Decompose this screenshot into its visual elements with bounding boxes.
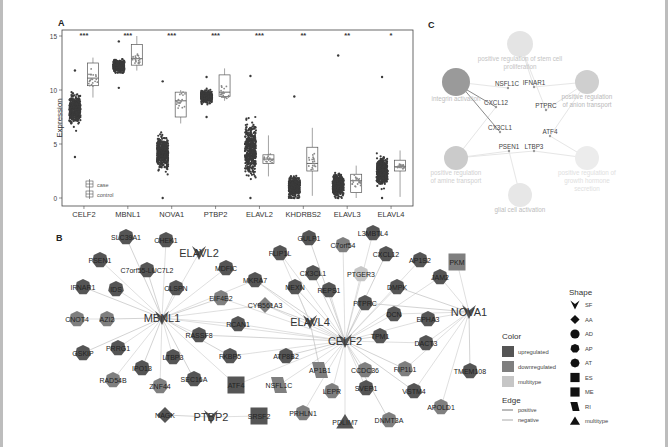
gene-label: PDLIM7	[332, 419, 357, 426]
gene-node: CLSPN	[164, 280, 187, 295]
gene-label: AP1B1	[309, 367, 331, 374]
control-box	[87, 58, 98, 98]
gene-label: TMEM108	[454, 368, 486, 375]
gene-label: PTPRC	[353, 300, 377, 307]
hub-label: PTBP2	[194, 411, 229, 423]
gene-node: MKRA7	[243, 272, 267, 287]
legend-shape-parallelogram-icon	[570, 402, 579, 411]
go-term-label: of anion transport	[562, 101, 611, 109]
gene-label: FKBP5	[219, 353, 241, 360]
go-term-node: positive regulationof amine transport	[431, 146, 482, 185]
gene-label: IFNAR1	[71, 284, 96, 291]
gene-node: TMEM108	[454, 363, 486, 378]
gene-node: CX3CL1	[488, 124, 512, 133]
y-tick-label: 0	[53, 195, 57, 202]
hub-rbp-node: MBNL1	[144, 311, 181, 325]
x-tick-label: MBNL1	[115, 210, 140, 219]
boxplot-chart: 051015ExpressionCELF2***MBNL1***NOVA1***…	[0, 0, 420, 230]
legend-label: control	[97, 192, 114, 198]
gene-label: PKM	[449, 259, 464, 266]
go-term-node: integrin activation	[431, 68, 481, 103]
legend: casecontrol	[86, 179, 114, 199]
gene-label: IDS	[110, 286, 122, 293]
gene-node: CHEK1	[154, 232, 177, 247]
go-term-node: positive regulationof anion transport	[562, 70, 613, 109]
legend-shape-diamond-icon	[570, 315, 579, 324]
gene-label: ATF4	[543, 128, 558, 135]
gene-node: REPS1	[318, 282, 341, 297]
legend-shape-title: Shape	[569, 288, 593, 297]
case-points	[112, 40, 125, 89]
rbp-interaction-network: SLC39A1CHEK1PSEN1C7orf55-LUC7L2MDFICMKRA…	[0, 225, 668, 447]
gene-node: NSFL1C	[495, 80, 520, 89]
legend-shape-label: AA	[585, 317, 593, 323]
gene-label: PTPRC	[535, 102, 557, 109]
significance-marker: ***	[80, 31, 89, 40]
hub-rbp-node: ELAVL2	[179, 246, 219, 260]
gene-label: ATF4	[228, 382, 245, 389]
legend-color-swatch	[502, 376, 514, 387]
x-tick-label: NOVA1	[159, 210, 184, 219]
gene-node: IDS	[108, 281, 124, 296]
gene-label: AP1S2	[409, 257, 431, 264]
control-box	[219, 68, 230, 100]
go-term-label: glial cell activation	[495, 206, 546, 214]
gene-label: GULP1	[298, 235, 321, 242]
gene-node: EIF4E2	[209, 290, 232, 305]
gene-node: CXCL12	[484, 99, 508, 108]
gene-label: PTGER3	[347, 271, 375, 278]
hub-rbp-node: ELAVL4	[290, 315, 330, 329]
legend-label: case	[97, 182, 109, 188]
legend-color-label: downregulated	[518, 364, 556, 370]
gene-label: JAM2	[431, 274, 449, 281]
gene-node: IPO13	[132, 360, 152, 375]
gene-label: PSEN1	[499, 143, 520, 150]
gene-label: PSEN1	[89, 257, 112, 264]
gene-node: FKBP5	[219, 348, 241, 363]
gene-node: SLC39A1	[111, 229, 141, 244]
legend-color-label: upregulated	[518, 349, 549, 355]
legend-shape-label: SF	[585, 302, 593, 308]
hub-label: ELAVL4	[290, 316, 330, 328]
significance-marker: **	[300, 31, 306, 40]
gene-label: SRSF2	[248, 413, 271, 420]
gene-node: AZI2	[99, 311, 115, 326]
gene-label: PRRG1	[106, 345, 130, 352]
gene-node: C7orf55-LUC7L2	[121, 262, 174, 277]
gene-node: CX3CL1	[300, 265, 327, 280]
legend-edge-label: negative	[518, 417, 539, 423]
gene-node: TPM1	[371, 328, 390, 343]
gene-node: L3MBTL4	[358, 225, 388, 240]
gene-label: DCN	[386, 311, 401, 318]
gene-node: DNMT3A	[375, 412, 404, 427]
gene-label: FLIP1L	[269, 250, 292, 257]
gene-label: CHEK1	[154, 237, 177, 244]
significance-marker: ***	[167, 31, 176, 40]
hub-rbp-node: PTBP2	[194, 410, 229, 424]
gene-label: PRHLN1	[289, 410, 317, 417]
y-axis-label: Expression	[55, 98, 64, 138]
gene-label: CYB561A3	[248, 302, 283, 309]
gene-label: CX3CL1	[300, 270, 327, 277]
legend-shape-rounded-square-icon	[570, 387, 579, 396]
go-term-node: positive regulation ofgrowth hormonesecr…	[558, 146, 616, 192]
gene-node: PKM	[449, 254, 466, 271]
gene-node: JAM2	[431, 269, 449, 284]
gene-node: RAD54B	[99, 372, 127, 387]
y-tick-label: 15	[50, 33, 58, 40]
legend-shape-label: AP	[585, 346, 593, 352]
x-tick-label: ELAVL2	[246, 210, 273, 219]
network-legend: ColorupregulateddownregulatedmultitypeEd…	[502, 288, 608, 425]
gene-label: RCAN1	[226, 321, 250, 328]
gene-label: IFNAR1	[523, 79, 546, 86]
legend-color-label: multitype	[518, 379, 541, 385]
gene-node: RASSF8	[185, 327, 212, 342]
gene-label: CCDC36	[351, 367, 379, 374]
gene-label: LEPR	[323, 388, 341, 395]
gene-node: LTBP3	[163, 349, 184, 364]
gene-label: SVEP1	[355, 385, 378, 392]
hub-rbp-node: NOVA1	[451, 305, 487, 319]
legend-shape-octagon-icon	[570, 358, 579, 367]
gene-label: NSFL1C	[495, 80, 520, 87]
gene-node: NSFL1C	[266, 377, 293, 393]
